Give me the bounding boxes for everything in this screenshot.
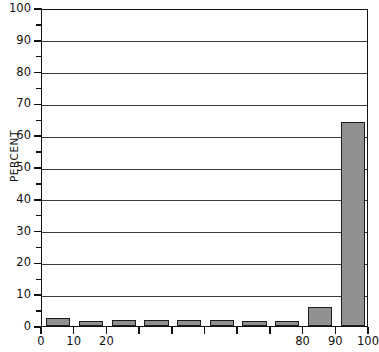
x-tick [269,327,271,334]
bar [308,307,332,326]
y-tick-label: 80 [0,67,31,79]
y-tick-label: 40 [0,194,31,206]
x-tick [40,327,42,334]
bar [210,320,234,326]
y-tick [34,8,42,10]
x-tick [204,327,206,334]
x-tick [171,327,173,334]
x-tick [335,327,337,334]
y-tick [34,135,42,137]
bar [341,122,365,326]
y-minor-tick [36,151,42,152]
y-tick-label: 90 [0,35,31,47]
y-minor-tick [36,279,42,280]
bar [46,318,70,326]
plot-area [41,9,368,327]
y-tick [34,40,42,42]
y-minor-tick [36,120,42,121]
gridline [42,296,367,297]
x-tick-label: 20 [86,336,126,348]
x-tick [138,327,140,334]
gridline [42,105,367,106]
y-tick [34,263,42,265]
bar [242,321,266,326]
y-tick-label: 10 [0,289,31,301]
y-tick-label: 50 [0,162,31,174]
y-tick-label: 20 [0,257,31,269]
chart-title [0,0,379,2]
bar [275,321,299,326]
histogram-chart: PERCENT 01020304050607080901000102080901… [0,0,379,352]
x-tick [302,327,304,334]
gridline [42,169,367,170]
gridline [42,264,367,265]
gridline [42,137,367,138]
y-tick [34,104,42,106]
y-minor-tick [36,56,42,57]
y-minor-tick [36,310,42,311]
y-tick-label: 0 [0,321,31,333]
gridline [42,200,367,201]
y-tick-label: 60 [0,130,31,142]
y-tick-label: 100 [0,3,31,15]
y-tick [34,294,42,296]
y-minor-tick [36,247,42,248]
x-tick [367,327,369,334]
y-tick [34,167,42,169]
x-tick [73,327,75,334]
bar [177,320,201,326]
gridline [42,41,367,42]
y-minor-tick [36,88,42,89]
bar [112,320,136,326]
x-tick [236,327,238,334]
y-tick-label: 70 [0,98,31,110]
x-tick-label: 100 [348,336,379,348]
gridline [42,232,367,233]
y-tick [34,231,42,233]
y-minor-tick [36,215,42,216]
gridline [42,73,367,74]
y-minor-tick [36,24,42,25]
bar [144,320,168,326]
y-minor-tick [36,183,42,184]
y-tick [34,72,42,74]
bar [79,321,103,326]
x-tick [106,327,108,334]
y-tick [34,199,42,201]
y-tick-label: 30 [0,226,31,238]
